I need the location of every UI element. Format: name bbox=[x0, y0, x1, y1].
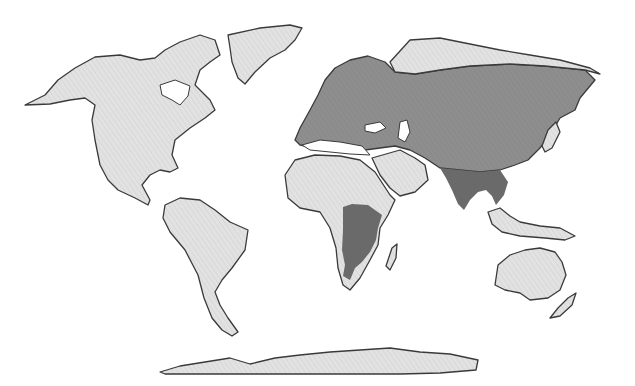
region-south-asia-range bbox=[440, 168, 508, 210]
region-south-america bbox=[163, 198, 248, 336]
region-indonesia bbox=[488, 208, 575, 240]
region-new-zealand bbox=[550, 293, 576, 318]
region-greenland bbox=[228, 25, 302, 84]
region-north-america bbox=[25, 35, 220, 205]
region-australia bbox=[495, 248, 566, 300]
world-map bbox=[0, 0, 635, 386]
region-madagascar bbox=[386, 244, 397, 270]
region-antarctica bbox=[160, 348, 478, 374]
region-eurasia-range bbox=[295, 56, 595, 172]
